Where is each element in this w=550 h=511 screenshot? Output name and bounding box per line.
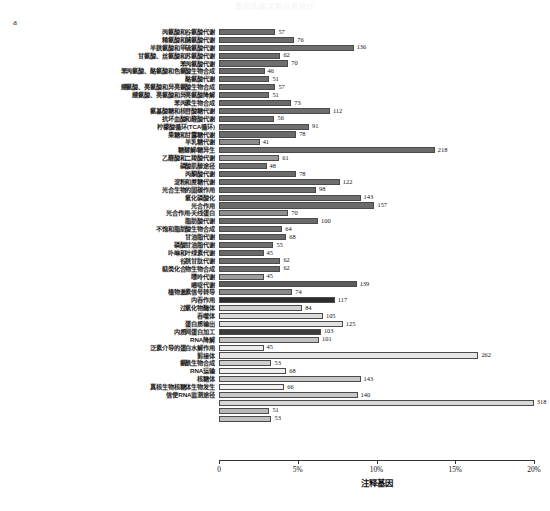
bar-track: 157 <box>219 202 534 210</box>
category-label: 泛素介导的蛋白水解作用 <box>16 344 219 352</box>
bar-track: 62 <box>219 257 534 265</box>
category-label: 植物激素信号转导 <box>16 288 219 296</box>
bar-row: 丙氨酸和谷氨酸代谢57 <box>16 28 534 36</box>
bar-row: 甘油脂代谢68 <box>16 233 534 241</box>
x-axis-tick <box>377 460 378 464</box>
bar <box>219 124 309 130</box>
bar-row: 吞噬体105 <box>16 312 534 320</box>
bar-row: RNA运输68 <box>16 367 534 375</box>
bar <box>219 108 330 114</box>
x-axis-tick <box>219 460 220 464</box>
bar-rows-container: 丙氨酸和谷氨酸代谢57精氨酸和脯氨酸代谢76半胱氨酸和甲硫氨酸代谢136甘氨酸、… <box>16 28 534 423</box>
bar <box>219 163 267 169</box>
x-axis-tick <box>534 460 535 464</box>
bar-track: 125 <box>219 320 534 328</box>
bar-row: 半乳糖代谢41 <box>16 138 534 146</box>
category-label: 过氧化物酶体 <box>16 304 219 312</box>
bar <box>219 281 357 287</box>
bar <box>219 84 275 90</box>
bar <box>219 242 273 248</box>
category-label: 蛋白质输出 <box>16 320 219 328</box>
category-label: 光合生物的固碳作用 <box>16 186 219 194</box>
category-label: 光合作用-天线蛋白 <box>16 209 219 217</box>
bar <box>219 258 280 264</box>
bar <box>219 60 288 66</box>
category-label: 苯丙氨酸代谢 <box>16 60 219 68</box>
category-label: 氨酰生物合成 <box>16 359 219 367</box>
bar-row: 蛋白质输出125 <box>16 320 534 328</box>
bar-row: 53 <box>16 415 534 423</box>
bar-track: 70 <box>219 209 534 217</box>
bar <box>219 139 260 145</box>
category-label: 半乳糖代谢 <box>16 138 219 146</box>
bar-row: 糖酵解/糖异生218 <box>16 146 534 154</box>
bar-track: 218 <box>219 146 534 154</box>
bar <box>219 408 269 414</box>
bar <box>219 250 264 256</box>
bar-row: 苯丙素生物合成73 <box>16 99 534 107</box>
bar-value-label: 53 <box>274 414 280 423</box>
category-label: 甘油脂代谢 <box>16 233 219 241</box>
bar <box>219 68 265 74</box>
bar-track: 262 <box>219 352 534 360</box>
bar <box>219 266 280 272</box>
bar-row: 半胱氨酸和甲硫氨酸代谢136 <box>16 44 534 52</box>
bar <box>219 416 271 422</box>
x-axis-tick-label: 10% <box>370 465 384 474</box>
category-label: 半胱氨酸和甲硫氨酸代谢 <box>16 44 219 52</box>
bar-row: 缬氨酸、亮氨酸和异亮氨酸降解51 <box>16 91 534 99</box>
category-label: 谷胱甘肽代谢 <box>16 257 219 265</box>
bar <box>219 368 286 374</box>
bar-row: RNA降解101 <box>16 336 534 344</box>
category-label: 缬氨酸、亮氨酸和异亮氨酸降解 <box>16 91 219 99</box>
category-label: RNA降解 <box>16 336 219 344</box>
bar <box>219 400 534 406</box>
bar <box>219 297 335 303</box>
category-label: 嘧啶代谢 <box>16 281 219 289</box>
bar-track: 51 <box>219 91 534 99</box>
x-axis-tick-label: 5% <box>293 465 303 474</box>
bar-row: 嘧啶代谢139 <box>16 281 534 289</box>
bar <box>219 360 271 366</box>
bar-track: 136 <box>219 44 534 52</box>
bar <box>219 337 319 343</box>
bar <box>219 195 361 201</box>
bar-track: 61 <box>219 154 534 162</box>
bar <box>219 345 264 351</box>
bar-row: 真核生物核糖体生物发生66 <box>16 383 534 391</box>
x-axis-tick <box>455 460 456 464</box>
category-label: 淀粉和蔗糖代谢 <box>16 178 219 186</box>
category-label: 磷酸甘油脂代谢 <box>16 241 219 249</box>
bar-track: 76 <box>219 36 534 44</box>
bar-track: 56 <box>219 115 534 123</box>
bar <box>219 155 279 161</box>
category-label: 剪接体 <box>16 352 219 360</box>
bar <box>219 226 282 232</box>
bar-track: 143 <box>219 375 534 383</box>
bar-row: 酪氨酸代谢51 <box>16 75 534 83</box>
bar-track: 53 <box>219 415 534 423</box>
bar-track: 51 <box>219 407 534 415</box>
bar-row: 光合作用157 <box>16 202 534 210</box>
bar-row: 谷胱甘肽代谢62 <box>16 257 534 265</box>
category-label: 真核生物核糖体生物发生 <box>16 383 219 391</box>
category-label: 萜类化合物生物合成 <box>16 265 219 273</box>
category-label: 苯丙素生物合成 <box>16 99 219 107</box>
bar <box>219 313 323 319</box>
panel-letter-a: a <box>13 17 17 27</box>
bar <box>219 218 318 224</box>
bar <box>219 384 284 390</box>
bar-row: 内质网蛋白加工103 <box>16 328 534 336</box>
bar <box>219 305 302 311</box>
category-label: 磷酸肌醇途径 <box>16 162 219 170</box>
bar-track: 78 <box>219 170 534 178</box>
bar-track: 122 <box>219 178 534 186</box>
category-label: 吞噬体 <box>16 312 219 320</box>
category-label: 精氨酸和脯氨酸代谢 <box>16 36 219 44</box>
bar <box>219 100 291 106</box>
bar-track: 70 <box>219 60 534 68</box>
kegg-pathway-bar-chart-figure: 基因功能注释分类统计 a 丙氨酸和谷氨酸代谢57精氨酸和脯氨酸代谢76半胱氨酸和… <box>0 0 550 511</box>
bar <box>219 274 264 280</box>
bar-row: 氧化磷酸化143 <box>16 194 534 202</box>
bar-track: 45 <box>219 273 534 281</box>
